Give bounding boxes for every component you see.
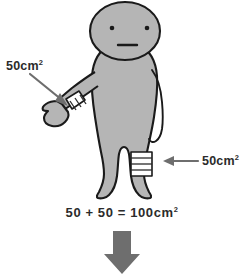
illustration-canvas: 50cm2 50cm2 50 + 50 = 100cm2 (0, 0, 244, 277)
label-left-area: 50cm2 (6, 60, 43, 73)
label-right-value: 50cm (202, 154, 235, 168)
area-sum-equation: 50 + 50 = 100cm2 (0, 206, 244, 219)
equation-exponent: 2 (174, 205, 179, 214)
flow-down-arrow-icon (104, 231, 140, 274)
label-left-value: 50cm (6, 59, 39, 73)
left-eye-dot-icon (110, 26, 115, 31)
left-annotation-arrow-shaft (30, 74, 62, 100)
label-left-exponent: 2 (39, 58, 43, 67)
label-right-area: 50cm2 (202, 155, 239, 168)
figure-illustration (0, 0, 244, 277)
equation-text: 50 + 50 = 100cm (66, 205, 174, 220)
right-eye-dot-icon (145, 26, 150, 31)
head (90, 2, 160, 60)
right-annotation-arrow-icon (163, 156, 198, 166)
right-annotation-arrow-head (163, 156, 174, 166)
leg-bandage (131, 152, 152, 176)
label-right-exponent: 2 (235, 153, 239, 162)
left-annotation-arrow-icon (30, 74, 68, 106)
